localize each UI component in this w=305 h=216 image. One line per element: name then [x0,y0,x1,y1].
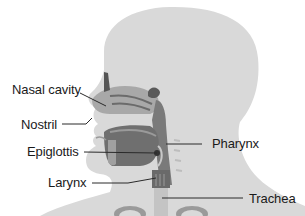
label-epiglottis: Epiglottis [27,145,79,158]
nostril-leader [62,118,92,124]
trachea-shape [154,188,168,216]
anatomy-illustration [0,0,305,216]
label-pharynx: Pharynx [212,137,259,150]
larynx-shape [152,170,170,188]
label-larynx: Larynx [48,176,86,189]
label-nostril: Nostril [21,118,57,131]
label-trachea: Trachea [249,192,296,205]
label-nasal-cavity: Nasal cavity [12,83,81,96]
respiratory-tract-diagram: Nasal cavity Nostril Epiglottis Larynx P… [0,0,305,216]
